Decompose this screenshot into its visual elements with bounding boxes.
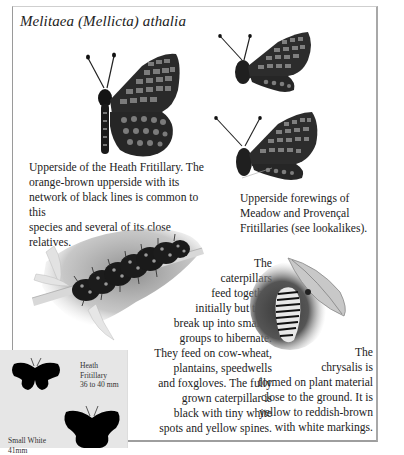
heath-fritillary-silhouette [10,356,62,392]
size-comparison-box: Heath Fritillary 36 to 40 mm Small White… [0,350,128,448]
species-title: Melitaea (Mellicta) athalia [20,13,186,30]
chrysalis-illustration [248,250,358,350]
forewings-caption: Upperside forewings of Meadow and Proven… [240,191,380,236]
meadow-fritillary-illustration [216,30,316,96]
chrysalis-caption: The chrysalis is formed on plant materia… [258,345,373,435]
small-white-size-label: Small White 41mm [8,436,46,455]
provencal-fritillary-illustration [212,108,322,186]
small-white-silhouette [62,402,122,448]
heath-size-label: Heath Fritillary 36 to 40 mm [80,361,119,390]
main-butterfly-illustration [64,42,184,160]
